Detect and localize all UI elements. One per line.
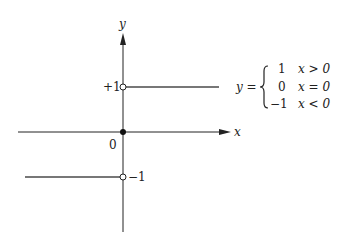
y-axis-label: y <box>118 17 126 31</box>
piecewise-definition: y = 1 x > 0 0 x = 0 −1 x < 0 <box>235 62 330 111</box>
open-point-minus-one <box>120 174 126 180</box>
x-axis-arrow-icon <box>219 129 231 135</box>
left-brace-icon <box>260 66 268 108</box>
x-axis-label: x <box>234 125 241 139</box>
tick-label-minus-one: −1 <box>128 170 146 184</box>
case-value-2: 0 <box>278 80 286 94</box>
case-value-1: 1 <box>278 62 286 76</box>
case-condition-1: x > 0 <box>298 62 330 76</box>
case-value-3: −1 <box>270 97 288 111</box>
definition-lhs: y = <box>235 80 257 94</box>
origin-label: 0 <box>109 138 117 152</box>
case-condition-2: x = 0 <box>298 80 330 94</box>
tick-label-plus-one: +1 <box>103 80 121 94</box>
closed-point-origin <box>120 129 126 135</box>
open-point-plus-one <box>120 84 126 90</box>
sign-function-diagram: y x 0 +1 −1 y = 1 x > 0 0 x = 0 −1 x < 0 <box>0 0 343 241</box>
case-condition-3: x < 0 <box>298 97 330 111</box>
y-axis-arrow-icon <box>120 33 126 45</box>
